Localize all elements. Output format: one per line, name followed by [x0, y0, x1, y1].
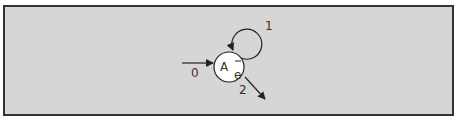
state-diagram: 0 1 2 A e: [0, 0, 457, 121]
state-node-a: A e: [214, 52, 244, 82]
node-label-main: A: [220, 60, 229, 74]
edge-outgoing: 2: [239, 77, 265, 99]
edge-label-1: 1: [265, 19, 273, 33]
node-label-sub: e: [234, 68, 241, 82]
edge-label-2: 2: [239, 83, 247, 97]
edge-incoming: 0: [182, 63, 213, 80]
edge-self-loop: 1: [232, 19, 273, 59]
edge-label-0: 0: [191, 66, 199, 80]
